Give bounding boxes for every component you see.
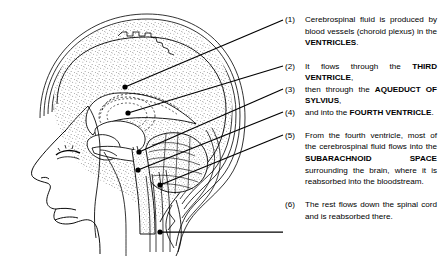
legend-text-5: From the fourth ventricle, most of the c…	[305, 130, 437, 188]
head-anatomy-diagram	[0, 0, 285, 258]
legend-text-2: It flows through the THIRD VENTRICLE,	[305, 61, 437, 84]
anchor-dot-5	[157, 182, 162, 187]
legend-item-3: (3) then through the AQUEDUCT OF SYLVIUS…	[283, 84, 437, 107]
legend-text-3: then through the AQUEDUCT OF SYLVIUS,	[305, 84, 437, 107]
legend-number-2: (2)	[285, 61, 305, 73]
legend-item-5: (5) From the fourth ventricle, most of t…	[283, 130, 437, 188]
legend-item-4: (4) and into the FOURTH VENTRICLE.	[283, 107, 437, 119]
legend-item-6: (6) The rest flows down the spinal cord …	[283, 199, 437, 222]
legend-text-4: and into the FOURTH VENTRICLE.	[305, 107, 437, 119]
anchor-dot-2	[125, 110, 130, 115]
anchor-dot-3	[136, 149, 141, 154]
legend-text-1: Cerebrospinal fluid is produced by blood…	[305, 14, 437, 49]
legend-item-2: (2) It flows through the THIRD VENTRICLE…	[283, 61, 437, 84]
legend-text-6: The rest flows down the spinal cord and …	[305, 199, 437, 222]
anchor-dot-4	[135, 167, 140, 172]
csf-circulation-figure: (1) Cerebrospinal fluid is produced by b…	[0, 0, 441, 258]
anchor-dot-6	[157, 229, 162, 234]
legend-number-1: (1)	[285, 14, 305, 26]
muscle-notch	[168, 212, 175, 230]
legend-number-4: (4)	[285, 107, 305, 119]
legend-item-1: (1) Cerebrospinal fluid is produced by b…	[283, 14, 437, 49]
anchor-dot-1	[122, 84, 127, 89]
legend-list: (1) Cerebrospinal fluid is produced by b…	[283, 14, 441, 258]
legend-number-6: (6)	[285, 199, 305, 211]
legend-number-3: (3)	[285, 84, 305, 96]
legend-number-5: (5)	[285, 130, 305, 142]
